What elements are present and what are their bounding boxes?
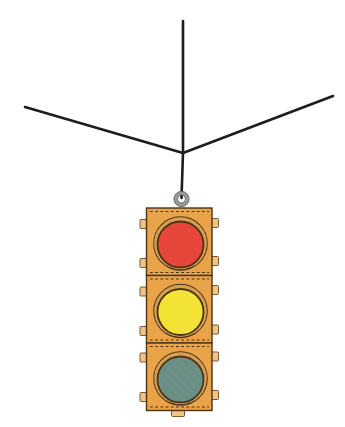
red-light [158,222,204,268]
lenses [158,222,204,403]
green-light-hatch-overlay [159,358,202,401]
suspension-wires [25,21,333,198]
traffic-light [140,208,219,417]
yellow-light [158,289,204,335]
wire-left [25,107,183,153]
illustration-canvas [0,0,345,427]
scene-illustration [0,0,345,427]
wire-right [183,96,333,153]
